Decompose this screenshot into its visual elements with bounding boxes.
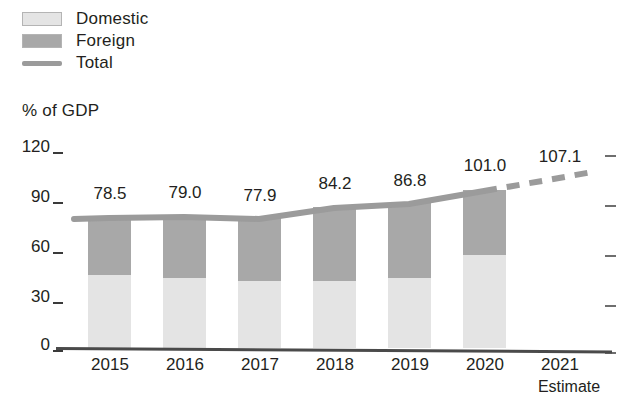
x-tick-sublabel-2021-estimate: Estimate [529,378,609,396]
bar-foreign-2020 [463,190,506,255]
right-tick-mark-60 [605,255,616,257]
x-tick-label-2019: 2019 [379,355,441,375]
bar-domestic-2017 [238,281,281,348]
x-tick-label-2016: 2016 [154,355,216,375]
y-tick-mark-90 [53,202,63,204]
chart-container: Domestic Foreign Total % of GDP 120 90 6… [0,0,624,406]
data-label-2016: 79.0 [154,183,216,203]
y-tick-label-60: 60 [4,237,50,257]
y-tick-label-120: 120 [4,137,50,157]
data-label-2018: 84.2 [304,174,366,194]
bar-domestic-2018 [313,281,356,348]
y-tick-label-30: 30 [4,287,50,307]
right-tick-mark-90 [605,205,616,207]
bar-domestic-2016 [163,278,206,348]
x-tick-label-2015: 2015 [79,355,141,375]
data-label-2020: 101.0 [452,156,518,176]
bar-foreign-2018 [313,207,356,281]
x-tick-label-2018: 2018 [304,355,366,375]
bar-domestic-2019 [388,278,431,348]
y-tick-label-90: 90 [4,187,50,207]
x-axis-baseline [56,347,612,353]
data-label-2015: 78.5 [79,184,141,204]
y-tick-mark-60 [53,252,63,254]
bar-domestic-2020 [463,255,506,348]
x-tick-label-2020: 2020 [454,355,516,375]
right-tick-mark-30 [605,305,616,307]
data-label-2021: 107.1 [527,147,593,167]
y-tick-mark-0 [53,350,63,352]
plot-area: 120 90 60 30 0 [0,0,624,406]
bar-domestic-2015 [88,275,131,348]
bar-foreign-2017 [238,218,281,281]
bar-foreign-2019 [388,203,431,278]
x-tick-label-2021: 2021 [529,355,591,375]
y-tick-label-0: 0 [4,335,50,355]
y-tick-mark-30 [53,302,63,304]
y-tick-mark-120 [53,152,63,154]
bar-foreign-2016 [163,216,206,278]
data-label-2017: 77.9 [229,186,291,206]
bar-foreign-2015 [88,217,131,275]
right-tick-mark-120 [605,155,616,157]
data-label-2019: 86.8 [379,171,441,191]
x-tick-label-2017: 2017 [229,355,291,375]
